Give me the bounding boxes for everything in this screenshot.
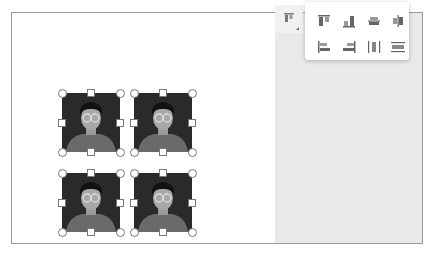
- resize-handle-bottom-right[interactable]: [188, 228, 197, 237]
- distribute-horizontal-icon[interactable]: [365, 40, 383, 54]
- resize-handle-top-left[interactable]: [58, 89, 67, 98]
- resize-handle-top[interactable]: [87, 169, 95, 177]
- resize-handle-left[interactable]: [130, 199, 138, 207]
- align-top-icon: [275, 5, 303, 33]
- resize-handle-top[interactable]: [159, 89, 167, 97]
- resize-handle-right[interactable]: [116, 119, 124, 127]
- resize-handle-bottom[interactable]: [159, 148, 167, 156]
- align-center-horizontal-icon[interactable]: [389, 14, 407, 28]
- resize-handle-bottom-left[interactable]: [130, 148, 139, 157]
- resize-handle-bottom-right[interactable]: [116, 148, 125, 157]
- align-bottom-icon[interactable]: [340, 14, 358, 28]
- resize-handle-right[interactable]: [116, 199, 124, 207]
- resize-handle-bottom-left[interactable]: [58, 228, 67, 237]
- resize-handle-top-left[interactable]: [58, 169, 67, 178]
- resize-handle-right[interactable]: [188, 199, 196, 207]
- resize-handle-bottom-left[interactable]: [130, 228, 139, 237]
- avatar-image-1[interactable]: [62, 93, 120, 152]
- avatar-image-2[interactable]: [134, 93, 192, 152]
- resize-handle-left[interactable]: [58, 119, 66, 127]
- resize-handle-top-right[interactable]: [116, 89, 125, 98]
- avatar-image-4[interactable]: [134, 173, 192, 232]
- avatar-image-3[interactable]: [62, 173, 120, 232]
- resize-handle-top-right[interactable]: [188, 169, 197, 178]
- resize-handle-bottom[interactable]: [87, 148, 95, 156]
- align-middle-icon[interactable]: [365, 14, 383, 28]
- align-menu: [305, 2, 409, 60]
- resize-handle-top-left[interactable]: [130, 89, 139, 98]
- resize-handle-bottom[interactable]: [159, 228, 167, 236]
- resize-handle-bottom-left[interactable]: [58, 148, 67, 157]
- resize-handle-top-left[interactable]: [130, 169, 139, 178]
- align-dropdown-button[interactable]: [275, 5, 303, 33]
- resize-handle-right[interactable]: [188, 119, 196, 127]
- resize-handle-left[interactable]: [130, 119, 138, 127]
- resize-handle-bottom[interactable]: [87, 228, 95, 236]
- resize-handle-bottom-right[interactable]: [116, 228, 125, 237]
- resize-handle-top[interactable]: [87, 89, 95, 97]
- align-left-icon[interactable]: [315, 40, 333, 54]
- align-top-icon[interactable]: [315, 14, 333, 28]
- resize-handle-top-right[interactable]: [116, 169, 125, 178]
- resize-handle-left[interactable]: [58, 199, 66, 207]
- resize-handle-top-right[interactable]: [188, 89, 197, 98]
- distribute-vertical-icon[interactable]: [389, 40, 407, 54]
- align-right-icon[interactable]: [340, 40, 358, 54]
- resize-handle-bottom-right[interactable]: [188, 148, 197, 157]
- resize-handle-top[interactable]: [159, 169, 167, 177]
